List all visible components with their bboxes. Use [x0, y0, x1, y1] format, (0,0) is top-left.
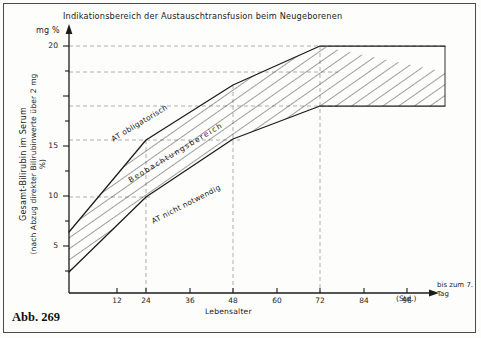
observation-band-hatching — [60, 30, 460, 290]
figure-number: Abb. 269 — [12, 311, 60, 324]
x-tick-label-72: 72 — [310, 297, 330, 304]
x-axis-unit-label: (Std.) — [396, 295, 416, 302]
y-tick-label-5: 5 — [38, 242, 58, 250]
y-tick-label-20: 20 — [38, 42, 58, 50]
x-axis-end-note: bis zum 7. Tag — [437, 281, 479, 299]
y-tick-label-10: 10 — [38, 192, 58, 200]
x-tick-label-12: 12 — [107, 297, 127, 304]
figure-container: Indikationsbereich der Austauschtransfus… — [0, 0, 481, 338]
y-tick-label-15: 15 — [38, 142, 58, 150]
y-axis-unit-label: mg % — [36, 27, 60, 35]
x-tick-label-24: 24 — [136, 297, 156, 304]
chart-plot-area — [0, 0, 481, 338]
x-tick-label-36: 36 — [180, 297, 200, 304]
x-tick-label-48: 48 — [223, 297, 243, 304]
y-axis-title-main: Gesamt-Bilirubin im Serum — [19, 69, 28, 259]
x-axis-title: Lebensalter — [205, 308, 252, 316]
y-axis-title-sub: (nach Abzug direkter Bilirubinwerte über… — [29, 69, 47, 259]
y-axis-title: Gesamt-Bilirubin im Serum (nach Abzug di… — [19, 69, 47, 259]
chart-title: Indikationsbereich der Austauschtransfus… — [63, 12, 342, 20]
x-axis — [69, 288, 439, 296]
x-tick-label-60: 60 — [267, 297, 287, 304]
x-tick-label-84: 84 — [354, 297, 374, 304]
